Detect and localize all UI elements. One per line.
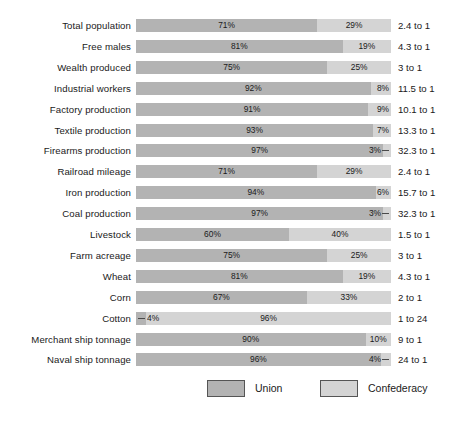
chart-row: Wheat81%19%4.3 to 1 bbox=[0, 268, 473, 285]
confederacy-percent-label: 3% bbox=[359, 144, 381, 157]
confederacy-percent-label: 29% bbox=[317, 19, 391, 32]
union-percent-label: 81% bbox=[136, 40, 343, 53]
union-percent-label: 67% bbox=[136, 291, 307, 304]
union-percent-label: 75% bbox=[136, 61, 327, 74]
leader-dash bbox=[382, 213, 389, 214]
confederacy-percent-label: 19% bbox=[343, 270, 391, 283]
union-percent-label: 75% bbox=[136, 249, 327, 262]
union-percent-label: 93% bbox=[136, 124, 373, 137]
union-percent-label: 97% bbox=[136, 144, 383, 157]
chart-row: Merchant ship tonnage90%10%9 to 1 bbox=[0, 331, 473, 348]
chart-row: Livestock60%40%1.5 to 1 bbox=[0, 226, 473, 243]
row-label: Industrial workers bbox=[0, 80, 131, 97]
union-percent-label: 90% bbox=[136, 333, 366, 346]
ratio-label: 32.3 to 1 bbox=[398, 142, 435, 159]
ratio-label: 3 to 1 bbox=[398, 247, 422, 264]
ratio-label: 13.3 to 1 bbox=[398, 122, 435, 139]
chart-row: Railroad mileage71%29%2.4 to 1 bbox=[0, 163, 473, 180]
row-label: Factory production bbox=[0, 101, 131, 118]
confederacy-percent-label: 33% bbox=[307, 291, 391, 304]
row-bar: 94%6% bbox=[136, 186, 391, 199]
leader-dash bbox=[382, 150, 389, 151]
chart-legend: Union Confederacy bbox=[0, 378, 473, 404]
row-bar: 97%3% bbox=[136, 144, 391, 157]
union-percent-label: 97% bbox=[136, 207, 383, 220]
chart-row: Cotton4%96%1 to 24 bbox=[0, 310, 473, 327]
confederacy-percent-label: 19% bbox=[343, 40, 391, 53]
ratio-label: 1.5 to 1 bbox=[398, 226, 430, 243]
confederacy-percent-label: 9% bbox=[367, 103, 389, 116]
chart-row: Naval ship tonnage96%4%24 to 1 bbox=[0, 351, 473, 368]
row-bar: 97%3% bbox=[136, 207, 391, 220]
ratio-label: 4.3 to 1 bbox=[398, 268, 430, 285]
ratio-label: 1 to 24 bbox=[398, 310, 427, 327]
legend-swatch-union bbox=[207, 380, 245, 397]
row-bar: 4%96% bbox=[136, 312, 391, 325]
row-bar: 71%29% bbox=[136, 19, 391, 32]
union-percent-label: 71% bbox=[136, 165, 317, 178]
ratio-label: 9 to 1 bbox=[398, 331, 422, 348]
confederacy-percent-label: 8% bbox=[367, 82, 389, 95]
union-percent-label: 92% bbox=[136, 82, 371, 95]
row-bar: 71%29% bbox=[136, 165, 391, 178]
row-label: Free males bbox=[0, 38, 131, 55]
union-percent-label: 96% bbox=[136, 353, 381, 366]
ratio-label: 10.1 to 1 bbox=[398, 101, 435, 118]
legend-swatch-confederacy bbox=[320, 380, 358, 397]
row-label: Cotton bbox=[0, 310, 131, 327]
confederacy-percent-label: 6% bbox=[367, 186, 389, 199]
row-bar: 90%10% bbox=[136, 333, 391, 346]
confederacy-percent-label: 4% bbox=[359, 353, 381, 366]
row-label: Corn bbox=[0, 289, 131, 306]
chart-row: Industrial workers92%8%11.5 to 1 bbox=[0, 80, 473, 97]
row-bar: 81%19% bbox=[136, 270, 391, 283]
chart-row: Textile production93%7%13.3 to 1 bbox=[0, 122, 473, 139]
chart-row: Iron production94%6%15.7 to 1 bbox=[0, 184, 473, 201]
ratio-label: 2.4 to 1 bbox=[398, 163, 430, 180]
chart-row: Total population71%29%2.4 to 1 bbox=[0, 17, 473, 34]
chart-row: Wealth produced75%25%3 to 1 bbox=[0, 59, 473, 76]
union-percent-label: 94% bbox=[136, 186, 376, 199]
row-bar: 75%25% bbox=[136, 249, 391, 262]
row-bar: 67%33% bbox=[136, 291, 391, 304]
ratio-label: 11.5 to 1 bbox=[398, 80, 435, 97]
union-percent-label: 91% bbox=[136, 103, 368, 116]
row-label: Textile production bbox=[0, 122, 131, 139]
confederacy-percent-label: 7% bbox=[367, 124, 389, 137]
row-bar: 92%8% bbox=[136, 82, 391, 95]
row-bar: 81%19% bbox=[136, 40, 391, 53]
chart-row: Factory production91%9%10.1 to 1 bbox=[0, 101, 473, 118]
row-label: Wheat bbox=[0, 268, 131, 285]
confederacy-percent-label: 29% bbox=[317, 165, 391, 178]
row-bar: 75%25% bbox=[136, 61, 391, 74]
ratio-label: 15.7 to 1 bbox=[398, 184, 435, 201]
legend-label-confederacy: Confederacy bbox=[368, 378, 428, 399]
confederacy-percent-label: 25% bbox=[327, 249, 391, 262]
confederacy-percent-label: 96% bbox=[146, 312, 391, 325]
row-bar: 91%9% bbox=[136, 103, 391, 116]
leader-dash bbox=[138, 318, 145, 319]
row-label: Wealth produced bbox=[0, 59, 131, 76]
row-label: Iron production bbox=[0, 184, 131, 201]
row-label: Merchant ship tonnage bbox=[0, 331, 131, 348]
union-percent-label: 81% bbox=[136, 270, 343, 283]
row-label: Naval ship tonnage bbox=[0, 351, 131, 368]
confederacy-percent-label: 3% bbox=[359, 207, 381, 220]
row-label: Total population bbox=[0, 17, 131, 34]
row-label: Coal production bbox=[0, 205, 131, 222]
chart-row: Firearms production97%3%32.3 to 1 bbox=[0, 142, 473, 159]
ratio-label: 2.4 to 1 bbox=[398, 17, 430, 34]
ratio-label: 2 to 1 bbox=[398, 289, 422, 306]
ratio-label: 32.3 to 1 bbox=[398, 205, 435, 222]
confederacy-percent-label: 10% bbox=[366, 333, 392, 346]
union-percent-label: 71% bbox=[136, 19, 317, 32]
ratio-label: 24 to 1 bbox=[398, 351, 427, 368]
row-label: Farm acreage bbox=[0, 247, 131, 264]
union-percent-label: 60% bbox=[136, 228, 289, 241]
row-bar: 60%40% bbox=[136, 228, 391, 241]
ratio-label: 3 to 1 bbox=[398, 59, 422, 76]
row-bar: 93%7% bbox=[136, 124, 391, 137]
leader-dash bbox=[382, 359, 389, 360]
chart-row: Farm acreage75%25%3 to 1 bbox=[0, 247, 473, 264]
chart-row: Coal production97%3%32.3 to 1 bbox=[0, 205, 473, 222]
